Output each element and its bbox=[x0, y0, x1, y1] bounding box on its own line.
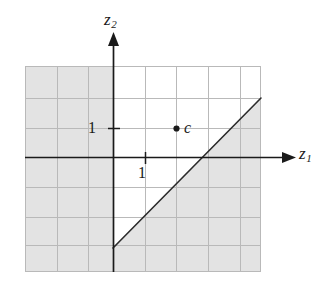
point-c-marker bbox=[173, 125, 179, 131]
x-axis-label: z1 bbox=[299, 145, 312, 164]
y-axis-arrowhead bbox=[108, 32, 119, 46]
y-axis-tick-label-1: 1 bbox=[88, 120, 96, 136]
region-plot-svg bbox=[0, 0, 335, 297]
x-axis-label-base: z bbox=[299, 144, 306, 163]
x-axis-tick-label-1: 1 bbox=[138, 165, 146, 181]
y-axis-label-base: z bbox=[104, 10, 111, 29]
y-axis-label-subscript: 2 bbox=[111, 18, 117, 30]
x-axis-label-subscript: 1 bbox=[306, 152, 312, 164]
figure-root: z2 z1 1 1 c bbox=[0, 0, 335, 297]
y-axis-label: z2 bbox=[104, 11, 117, 30]
point-c-label: c bbox=[184, 120, 191, 136]
x-axis-arrowhead bbox=[282, 152, 296, 163]
